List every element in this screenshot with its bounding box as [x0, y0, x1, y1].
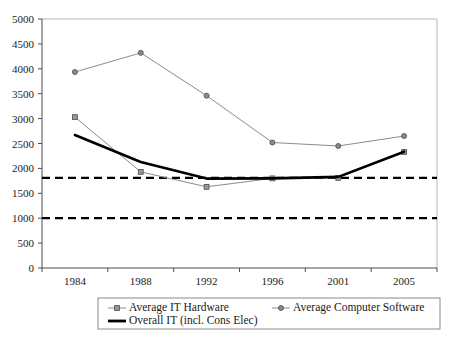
data-point [204, 93, 209, 98]
y-tick-label: 3000 [12, 113, 35, 125]
y-tick-label: 4000 [12, 63, 35, 75]
legend-entry-label: Average IT Hardware [129, 301, 229, 314]
legend-swatch-circle-icon [279, 306, 284, 311]
chart-container: 0500100015002000250030003500400045005000… [0, 0, 457, 342]
legend-entry-label: Overall IT (incl. Cons Elec) [129, 314, 258, 327]
data-point [336, 143, 341, 148]
y-tick-label: 5000 [12, 13, 35, 25]
x-tick-label: 1988 [130, 275, 153, 287]
legend-entry-3[interactable]: Overall IT (incl. Cons Elec) [108, 314, 258, 327]
y-tick-label: 500 [18, 237, 35, 249]
x-tick-label: 1984 [64, 275, 87, 287]
legend-entry-2[interactable]: Average Computer Software [272, 301, 424, 314]
data-point [72, 70, 77, 75]
data-point [138, 50, 143, 55]
y-tick-label: 4500 [12, 38, 35, 50]
x-tick-label: 2001 [327, 275, 349, 287]
legend-entry-label: Average Computer Software [293, 301, 424, 314]
y-tick-label: 3500 [12, 88, 35, 100]
data-point [204, 184, 209, 189]
data-point [402, 134, 407, 139]
line-chart: 0500100015002000250030003500400045005000… [0, 0, 457, 342]
x-tick-label: 1996 [261, 275, 284, 287]
data-point [270, 140, 275, 145]
legend-swatch-square-icon [115, 306, 120, 311]
y-tick-label: 2000 [12, 162, 35, 174]
y-tick-label: 1500 [12, 187, 35, 199]
chart-background [0, 0, 457, 342]
x-tick-label: 1992 [196, 275, 218, 287]
y-tick-label: 1000 [12, 212, 35, 224]
x-tick-label: 2005 [393, 275, 416, 287]
data-point [73, 115, 78, 120]
y-tick-label: 2500 [12, 138, 35, 150]
data-point [138, 169, 143, 174]
legend: Average IT HardwareAverage Computer Soft… [98, 298, 440, 329]
y-tick-label: 0 [29, 262, 35, 274]
